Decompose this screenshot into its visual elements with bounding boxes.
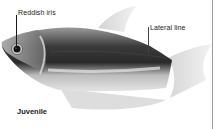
page-divider (212, 0, 213, 129)
iris-leader-line (16, 15, 17, 48)
callout-lateral-line: Lateral line (150, 24, 185, 31)
figure-caption: Juvenile (17, 107, 47, 116)
lateral-line-leader-line (148, 27, 149, 53)
callout-reddish-iris: Reddish iris (18, 9, 56, 16)
figure: Reddish iris Lateral line Juvenile (0, 0, 215, 129)
